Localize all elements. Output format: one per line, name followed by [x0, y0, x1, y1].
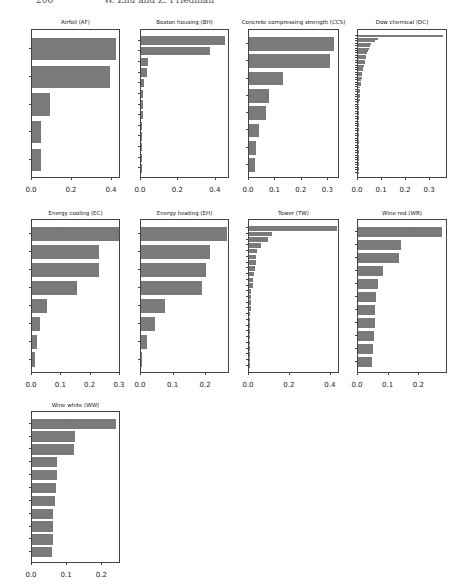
y-tick — [29, 287, 31, 288]
x-tick-label: 0.0 — [25, 186, 36, 194]
y-tick — [355, 84, 357, 85]
bar — [249, 124, 259, 138]
y-tick — [355, 157, 357, 158]
bar — [249, 278, 253, 283]
bar — [358, 292, 376, 302]
y-tick — [246, 129, 248, 130]
x-tick-label: 0.2 — [96, 571, 107, 579]
bar — [249, 237, 268, 242]
y-tick — [355, 113, 357, 114]
y-tick — [355, 335, 357, 336]
y-tick — [355, 38, 357, 39]
bar — [249, 37, 334, 51]
y-tick — [138, 251, 140, 252]
bar — [249, 260, 256, 265]
y-tick — [246, 319, 248, 320]
y-tick — [246, 336, 248, 337]
y-tick — [138, 40, 140, 41]
x-tick-label: 0.0 — [351, 186, 362, 194]
x-tick — [119, 373, 120, 375]
y-tick — [355, 159, 357, 160]
y-tick — [355, 121, 357, 122]
bar — [141, 245, 210, 259]
y-tick — [355, 348, 357, 349]
y-tick — [355, 43, 357, 44]
y-tick — [355, 140, 357, 141]
bar — [249, 266, 255, 271]
y-tick — [355, 82, 357, 83]
plot-area — [140, 29, 229, 178]
bar — [141, 79, 144, 88]
x-tick-label: 0.1 — [375, 186, 386, 194]
bar — [141, 281, 202, 295]
x-tick — [71, 178, 72, 180]
y-tick — [29, 104, 31, 105]
x-tick — [405, 178, 406, 180]
x-tick-label: 0.0 — [242, 381, 253, 389]
bar — [249, 295, 251, 300]
y-tick — [355, 40, 357, 41]
y-tick — [29, 269, 31, 270]
bar — [249, 232, 272, 237]
x-tick-label: 0.4 — [324, 381, 335, 389]
y-tick — [355, 116, 357, 117]
y-tick — [138, 359, 140, 360]
bar — [32, 547, 52, 557]
bar — [358, 240, 401, 250]
x-tick — [60, 373, 61, 375]
y-tick — [246, 325, 248, 326]
y-tick — [246, 353, 248, 354]
y-tick — [138, 146, 140, 147]
y-tick — [29, 359, 31, 360]
y-tick — [355, 231, 357, 232]
running-title: W. Zhu and Z. Friedman — [104, 0, 214, 5]
bar — [249, 226, 337, 231]
x-tick — [327, 178, 328, 180]
bar — [249, 283, 253, 288]
bar — [32, 335, 37, 349]
x-tick — [66, 563, 67, 565]
y-tick — [355, 65, 357, 66]
bar — [32, 66, 110, 88]
y-tick — [355, 60, 357, 61]
y-tick — [355, 322, 357, 323]
bar — [141, 335, 147, 349]
y-tick — [29, 305, 31, 306]
x-tick — [429, 178, 430, 180]
y-tick — [355, 309, 357, 310]
bar — [32, 352, 35, 366]
y-tick — [29, 513, 31, 514]
x-tick-label: 0.2 — [200, 381, 211, 389]
y-tick — [29, 251, 31, 252]
bar — [358, 318, 375, 328]
y-tick — [355, 164, 357, 165]
plot-area — [31, 219, 120, 373]
y-tick — [355, 145, 357, 146]
bar — [32, 149, 41, 171]
bar — [32, 299, 47, 313]
y-tick — [355, 94, 357, 95]
y-tick — [246, 279, 248, 280]
bar — [32, 444, 74, 454]
y-tick — [355, 77, 357, 78]
bar — [32, 521, 53, 531]
bar — [249, 312, 250, 317]
y-tick — [355, 96, 357, 97]
y-tick — [138, 287, 140, 288]
x-tick — [31, 563, 32, 565]
y-tick — [138, 305, 140, 306]
y-tick — [355, 296, 357, 297]
bar — [358, 331, 374, 341]
bar — [249, 243, 261, 248]
bar — [141, 90, 143, 99]
plot-area — [31, 411, 120, 563]
y-tick — [138, 233, 140, 234]
y-tick — [246, 147, 248, 148]
bar — [249, 323, 250, 328]
y-tick — [355, 283, 357, 284]
bar — [32, 419, 116, 429]
y-tick — [138, 167, 140, 168]
x-tick-label: 0.4 — [209, 186, 220, 194]
y-tick — [138, 93, 140, 94]
y-tick — [138, 157, 140, 158]
